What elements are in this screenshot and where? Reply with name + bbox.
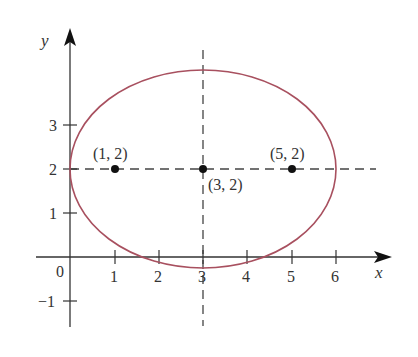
- x-tick-label-3: 3: [198, 268, 206, 285]
- x-axis-label: x: [374, 263, 383, 282]
- x-tick-label-2: 2: [154, 268, 162, 285]
- focus-point-right: [288, 165, 296, 173]
- y-tick-label-2: 2: [49, 161, 57, 178]
- y-tick-label-neg1: −1: [38, 293, 55, 310]
- origin-label: 0: [56, 263, 64, 280]
- ellipse-diagram: y x 0 1 2 3 4 5 6 3 2 1 −1 (1, 2) (3, 2)…: [0, 0, 418, 357]
- x-tick-label-1: 1: [110, 268, 118, 285]
- y-tick-label-3: 3: [49, 117, 57, 134]
- x-tick-label-4: 4: [242, 268, 250, 285]
- y-axis-label: y: [39, 31, 49, 50]
- y-tick-label-1: 1: [49, 205, 57, 222]
- center-point: [199, 165, 207, 173]
- x-tick-label-6: 6: [331, 268, 339, 285]
- focus-point-left: [111, 165, 119, 173]
- point-label-1-2: (1, 2): [93, 145, 128, 163]
- point-label-3-2: (3, 2): [208, 176, 243, 194]
- point-label-5-2: (5, 2): [270, 145, 305, 163]
- x-tick-label-5: 5: [287, 268, 295, 285]
